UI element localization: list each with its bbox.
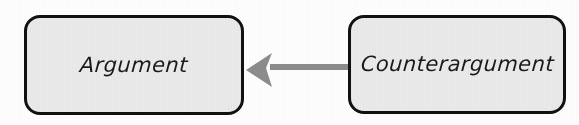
arrow-counterargument-to-argument-icon	[240, 48, 354, 92]
diagram-canvas: Argument Counterargument	[0, 0, 579, 125]
node-argument[interactable]: Argument	[24, 15, 244, 115]
node-argument-label: Argument	[79, 55, 188, 76]
node-counterargument-label: Counterargument	[360, 54, 554, 75]
node-counterargument[interactable]: Counterargument	[348, 15, 566, 114]
